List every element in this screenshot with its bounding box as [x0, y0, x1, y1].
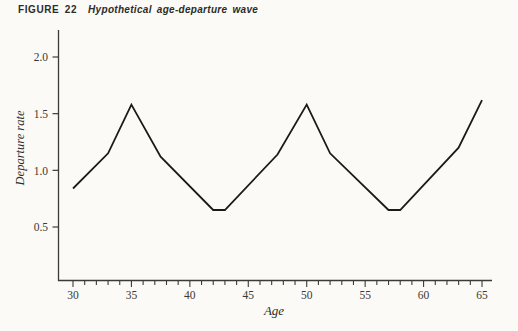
y-tick-label: 1.0	[34, 165, 49, 177]
x-tick-label: 40	[184, 289, 196, 301]
y-tick-label: 1.5	[34, 108, 49, 120]
x-tick-label: 60	[418, 289, 430, 301]
x-tick-label: 45	[243, 289, 255, 301]
x-axis-title: Age	[264, 303, 284, 319]
age-departure-chart: 0.51.01.52.03035404550556065	[0, 0, 518, 331]
y-tick-label: 2.0	[34, 51, 49, 63]
x-tick-label: 30	[67, 289, 79, 301]
departure-rate-wave-line	[73, 100, 482, 210]
y-tick-label: 0.5	[34, 221, 49, 233]
x-tick-label: 55	[359, 289, 371, 301]
axis-lines	[59, 30, 493, 281]
x-tick-label: 50	[301, 289, 313, 301]
x-tick-label: 35	[126, 289, 138, 301]
x-tick-label: 65	[476, 289, 488, 301]
y-axis-title: Departure rate	[13, 111, 28, 186]
figure-page: FIGURE 22Hypothetical age-departure wave…	[0, 0, 518, 331]
